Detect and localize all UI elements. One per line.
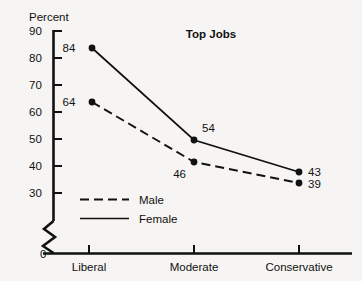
data-point-female-conservative (296, 169, 303, 176)
data-point-female-moderate (191, 137, 198, 144)
data-label-male-conservative: 39 (308, 178, 321, 190)
chart-title: Top Jobs (186, 28, 236, 40)
y-tick-label-40: 40 (29, 160, 42, 172)
data-label-male-liberal: 64 (63, 96, 76, 108)
data-label-female-liberal: 84 (63, 42, 76, 54)
y-tick-label-0: 0 (40, 248, 46, 260)
x-label-liberal: Liberal (72, 261, 107, 273)
data-point-male-conservative (296, 180, 303, 187)
y-tick-label-70: 70 (29, 79, 42, 91)
y-axis-title: Percent (29, 11, 69, 23)
x-label-conservative: Conservative (265, 261, 332, 273)
data-point-male-moderate (191, 159, 198, 166)
x-label-moderate: Moderate (170, 261, 219, 273)
y-tick-label-80: 80 (29, 52, 42, 64)
y-tick-label-60: 60 (29, 106, 42, 118)
data-label-female-conservative: 43 (308, 166, 321, 178)
chart-container: Percent 90 80 70 60 50 40 30 0 Liberal M… (0, 0, 362, 281)
y-tick-label-90: 90 (29, 25, 42, 37)
data-label-male-moderate: 46 (173, 168, 186, 180)
series-line-female (92, 48, 299, 172)
line-chart: Percent 90 80 70 60 50 40 30 0 Liberal M… (0, 0, 362, 281)
y-tick-label-50: 50 (29, 133, 42, 145)
y-tick-label-30: 30 (29, 187, 42, 199)
legend-label-male: Male (139, 194, 164, 206)
data-label-female-moderate: 54 (202, 122, 215, 134)
data-point-male-liberal (89, 99, 96, 106)
legend-label-female: Female (139, 213, 177, 225)
data-point-female-liberal (89, 45, 96, 52)
